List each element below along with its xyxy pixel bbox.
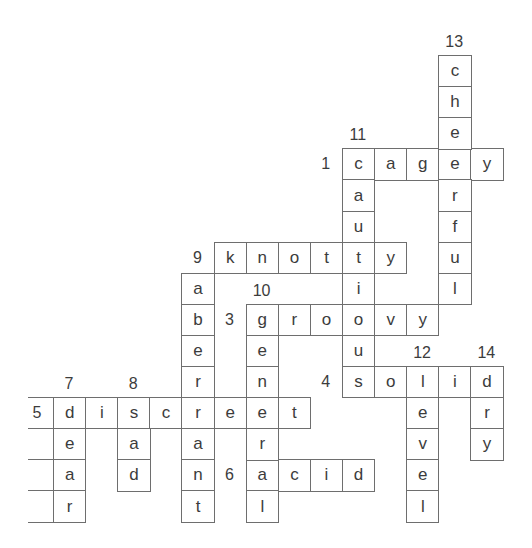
cell-letter: i [325, 465, 329, 485]
crossword-cell[interactable]: r [278, 304, 311, 336]
cell-letter: d [482, 372, 491, 392]
crossword-cell[interactable]: e [438, 117, 471, 149]
crossword-cell[interactable]: l [246, 490, 279, 522]
crossword-cell[interactable]: r [181, 397, 214, 429]
crossword-cell[interactable]: c [438, 55, 471, 87]
crossword-cell[interactable]: t [181, 490, 214, 522]
crossword-cell[interactable]: f [438, 211, 471, 243]
crossword-cell[interactable]: e [406, 397, 439, 429]
cell-letter: s [354, 372, 363, 392]
crossword-cell[interactable]: e [246, 335, 279, 367]
cell-letter: c [290, 465, 299, 485]
crossword-cell[interactable]: e [53, 428, 86, 460]
cell-letter: y [386, 248, 395, 268]
crossword-cell[interactable]: n [246, 242, 279, 274]
crossword-cell[interactable]: o [342, 304, 375, 336]
crossword-cell[interactable]: k [214, 242, 247, 274]
crossword-cell[interactable]: u [342, 335, 375, 367]
cell-letter: l [421, 372, 425, 392]
crossword-cell[interactable]: n [246, 366, 279, 398]
crossword-cell[interactable]: l [438, 273, 471, 305]
crossword-cell[interactable]: v [374, 304, 407, 336]
crossword-cell[interactable]: o [374, 366, 407, 398]
crossword-cell[interactable]: y [406, 304, 439, 336]
crossword-cell[interactable]: r [246, 428, 279, 460]
crossword-cell[interactable]: e [246, 397, 279, 429]
crossword-cell[interactable]: a [246, 459, 279, 491]
crossword-cell[interactable]: s [342, 366, 375, 398]
crossword-cell[interactable]: d [342, 459, 375, 491]
crossword-cell[interactable]: y [470, 148, 503, 180]
crossword-cell[interactable]: r [53, 490, 86, 522]
crossword-cell[interactable]: r [438, 179, 471, 211]
cell-letter: r [452, 186, 458, 206]
cell-letter: a [65, 465, 74, 485]
crossword-cell[interactable]: t [342, 242, 375, 274]
crossword-cell[interactable]: b [181, 304, 214, 336]
crossword-cell[interactable]: o [310, 304, 343, 336]
cell-letter: c [451, 61, 460, 81]
crossword-cell[interactable]: a [53, 459, 86, 491]
cell-letter: l [421, 497, 425, 517]
crossword-cell[interactable]: u [438, 242, 471, 274]
crossword-cell[interactable]: u [342, 211, 375, 243]
crossword-cell[interactable]: a [342, 179, 375, 211]
crossword-cell[interactable]: r [181, 366, 214, 398]
crossword-cell[interactable]: e [181, 335, 214, 367]
crossword-cell[interactable]: i [438, 366, 471, 398]
crossword-cell[interactable]: h [438, 86, 471, 118]
crossword-cell[interactable]: d [117, 459, 150, 491]
cell-letter: r [484, 403, 490, 423]
crossword-cell[interactable]: i [342, 273, 375, 305]
cell-letter: g [258, 310, 267, 330]
crossword-cell[interactable]: a [181, 428, 214, 460]
cell-letter: o [322, 310, 331, 330]
crossword-cell[interactable]: e [406, 459, 439, 491]
clue-number-13: 13 [438, 26, 470, 57]
crossword-cell[interactable]: c [149, 397, 182, 429]
crossword-cell[interactable]: n [181, 459, 214, 491]
cell-letter: e [418, 403, 427, 423]
cell-letter: e [258, 403, 267, 423]
crossword-cell[interactable]: r [470, 397, 503, 429]
cell-letter: l [260, 497, 264, 517]
cell-letter: b [193, 310, 202, 330]
crossword-cell[interactable]: y [374, 242, 407, 274]
cell-letter: t [292, 403, 297, 423]
cell-letter: n [193, 465, 202, 485]
cell-letter: k [226, 248, 235, 268]
cell-letter: e [225, 403, 234, 423]
crossword-cell[interactable]: t [310, 242, 343, 274]
crossword-cell[interactable]: a [181, 273, 214, 305]
cell-letter: r [67, 497, 73, 517]
crossword-cell[interactable]: o [278, 242, 311, 274]
cell-letter: a [193, 434, 202, 454]
cell-letter: s [130, 403, 139, 423]
cell-letter: i [453, 372, 457, 392]
crossword-cell[interactable]: e [438, 148, 471, 180]
crossword-cell[interactable]: v [406, 428, 439, 460]
crossword-cell[interactable]: y [470, 428, 503, 460]
crossword-cell[interactable]: t [278, 397, 311, 429]
cell-letter: f [453, 217, 458, 237]
crossword-cell[interactable]: a [374, 148, 407, 180]
clue-number-4: 4 [310, 366, 342, 397]
crossword-cell[interactable]: g [406, 148, 439, 180]
crossword-cell[interactable]: i [310, 459, 343, 491]
cell-letter: c [162, 403, 171, 423]
cell-letter: n [258, 372, 267, 392]
crossword-cell[interactable]: d [470, 366, 503, 398]
crossword-cell[interactable]: l [406, 490, 439, 522]
crossword-cell[interactable]: a [117, 428, 150, 460]
cell-letter: h [450, 92, 459, 112]
crossword-cell[interactable]: e [214, 397, 247, 429]
crossword-cell[interactable]: g [246, 304, 279, 336]
crossword-cell[interactable]: c [342, 148, 375, 180]
crossword-cell[interactable]: l [406, 366, 439, 398]
crossword-cell[interactable]: i [85, 397, 118, 429]
clue-number-8: 8 [117, 368, 149, 399]
crossword-cell[interactable]: c [278, 459, 311, 491]
crossword-cell[interactable]: d [53, 397, 86, 429]
cell-letter: e [450, 123, 459, 143]
crossword-cell[interactable]: s [117, 397, 150, 429]
